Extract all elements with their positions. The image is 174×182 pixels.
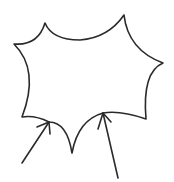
right-arrow-shaft xyxy=(103,113,118,178)
spiky-star-shape xyxy=(14,15,163,153)
left-arrow-shaft xyxy=(22,122,49,163)
right-arrow xyxy=(98,113,118,178)
sketch-canvas xyxy=(0,0,174,182)
sketch-drawing xyxy=(0,0,174,182)
left-arrow xyxy=(22,122,50,163)
